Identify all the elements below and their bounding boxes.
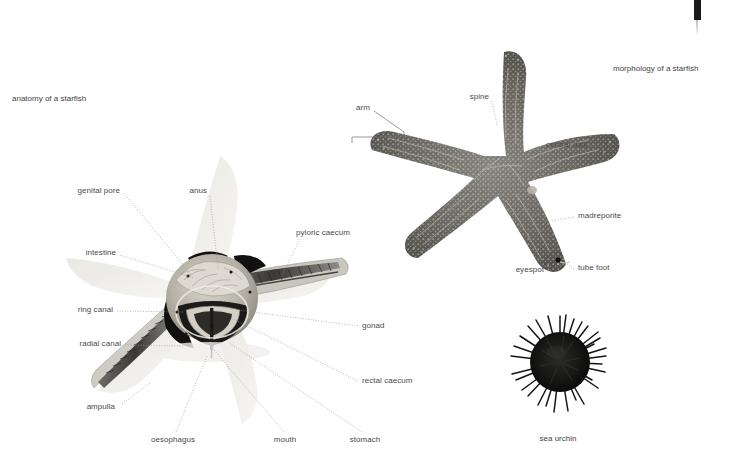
label-genital-pore: genital pore bbox=[78, 186, 120, 196]
sea-urchin-photo bbox=[506, 310, 614, 418]
label-stomach: stomach bbox=[350, 435, 381, 445]
label-tube-foot: tube foot bbox=[578, 263, 610, 273]
starfish-morphology-photo bbox=[352, 38, 638, 288]
label-spine: spine bbox=[470, 92, 489, 102]
label-pyloric-caecum: pyloric caecum bbox=[296, 228, 350, 238]
starfish-anatomy-illustration bbox=[60, 140, 370, 430]
label-ring-canal: ring canal bbox=[78, 305, 113, 315]
label-rectal-caecum: rectal caecum bbox=[362, 376, 412, 386]
label-radial-canal: radial canal bbox=[79, 339, 121, 349]
label-arm: arm bbox=[356, 103, 370, 113]
label-gonad: gonad bbox=[362, 321, 385, 331]
label-anus: anus bbox=[189, 186, 207, 196]
label-mouth: mouth bbox=[274, 435, 296, 445]
label-madreporite: madreporite bbox=[578, 211, 621, 221]
page-edge-strip bbox=[694, 0, 701, 20]
label-oesophagus: oesophagus bbox=[151, 435, 195, 445]
label-intestine: intestine bbox=[86, 248, 116, 258]
figure-caption-anatomy: anatomy of a starfish bbox=[12, 94, 86, 104]
label-central-disk: central disk bbox=[546, 140, 587, 150]
label-eyespot: eyespot bbox=[516, 265, 544, 275]
page-edge-tail bbox=[696, 20, 698, 36]
figure-caption-sea-urchin: sea urchin bbox=[540, 434, 577, 444]
illustration-plate: anatomy of a starfish genital pore anus … bbox=[0, 0, 736, 473]
figure-caption-morphology: morphology of a starfish bbox=[613, 64, 698, 74]
label-ampulla: ampulla bbox=[87, 402, 115, 412]
